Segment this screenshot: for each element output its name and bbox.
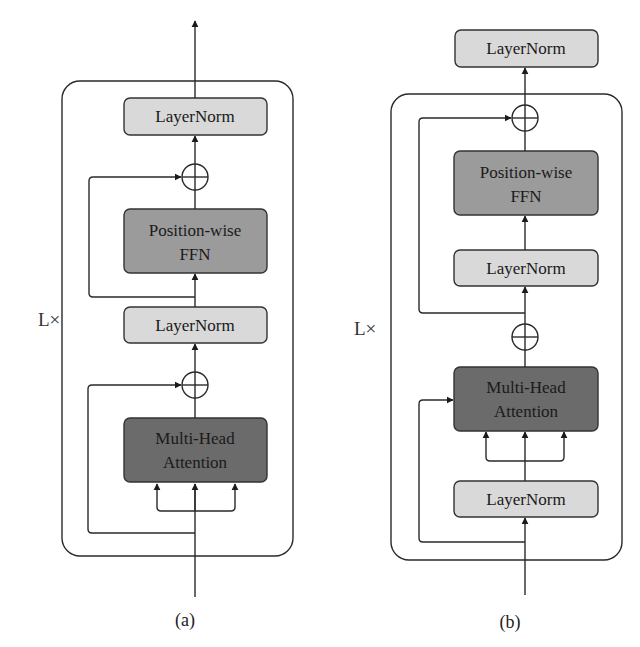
arrow-q [157,484,195,511]
multi-head-attention-block [124,418,267,482]
multi-head-attention-block [454,367,598,431]
layernorm-label: LayerNorm [486,39,565,58]
panel-b: L× LayerNorm Multi-Head Attention LayerN… [354,30,622,633]
repeat-label: L× [38,309,60,330]
ffn-label-line1: Position-wise [149,221,242,240]
panel-a: L× Multi-Head Attention LayerNorm Positi… [38,21,293,631]
mha-label-line1: Multi-Head [486,378,566,397]
arrow-q [486,432,525,461]
mha-label-line2: Attention [494,402,559,421]
mha-label-line1: Multi-Head [155,429,235,448]
layernorm-label: LayerNorm [155,107,234,126]
panel-caption: (b) [500,612,521,633]
arrow-k [525,432,564,461]
layernorm-label: LayerNorm [486,259,565,278]
transformer-diagram: L× Multi-Head Attention LayerNorm Positi… [0,0,640,647]
layernorm-label: LayerNorm [155,316,234,335]
panel-caption: (a) [175,610,195,631]
layernorm-label: LayerNorm [486,490,565,509]
ffn-label-line2: FFN [179,245,210,264]
ffn-label-line1: Position-wise [480,163,573,182]
repeat-label: L× [354,318,376,339]
ffn-label-line2: FFN [510,187,541,206]
mha-label-line2: Attention [163,453,228,472]
arrow-k [195,484,235,511]
